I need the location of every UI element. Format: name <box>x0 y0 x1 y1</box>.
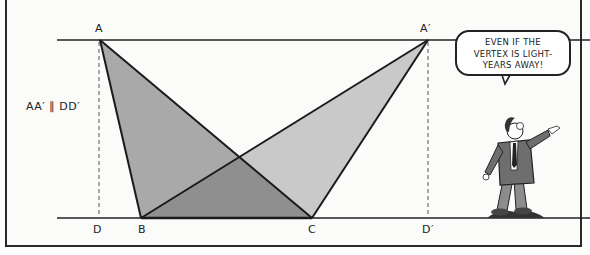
parallel-note: AA′ ∥ DD′ <box>26 100 80 113</box>
label-c: C <box>308 223 316 236</box>
speech-bubble-tail <box>502 75 510 84</box>
bubble-line-1: EVEN IF THE <box>457 37 569 49</box>
diagram-canvas: A A′ D B C D′ AA′ ∥ DD′ EVEN IF THE VERT… <box>0 0 590 255</box>
bubble-line-3: YEARS AWAY! <box>457 60 569 72</box>
bubble-line-2: VERTEX IS LIGHT- <box>457 49 569 61</box>
label-d-prime: D′ <box>422 223 434 236</box>
label-d: D <box>93 223 102 236</box>
label-b: B <box>138 223 146 236</box>
speech-bubble: EVEN IF THE VERTEX IS LIGHT- YEARS AWAY! <box>455 30 571 76</box>
cartoon-character-icon <box>483 117 560 218</box>
label-a: A <box>95 22 103 35</box>
speech-bubble-text: EVEN IF THE VERTEX IS LIGHT- YEARS AWAY! <box>457 37 569 72</box>
label-a-prime: A′ <box>420 22 431 35</box>
